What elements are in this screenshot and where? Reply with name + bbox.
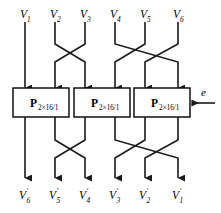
output-v3-prime: V′3 [109,187,121,205]
wire-v3-to-block-port [55,22,85,88]
permutation-network-figure: P2×16/1P2×16/1P2×16/1 e V1V2V3V4V5V6 V′6… [0,0,221,213]
wire-out-left-2 [55,117,85,178]
input-v5: V5 [140,8,151,24]
output-v2-prime: V′2 [139,187,151,205]
block-p-left-outline [13,88,69,117]
input-v5-subscript: 5 [147,15,151,24]
output-v6-prime: V′6 [19,187,31,205]
input-v2: V2 [50,8,61,24]
block-p-middle-sublabel: 2×16/1 [99,104,120,112]
input-v3-subscript: 3 [86,15,91,24]
output-v2-prime-subscript: 2 [147,196,151,205]
enable-label: e [201,86,206,98]
wire-v4-to-block-port [115,22,178,88]
output-v3-prime-subscript: 3 [116,196,121,205]
output-v1-prime: V′1 [172,187,183,205]
input-v6-subscript: 6 [180,15,184,24]
block-p-right[interactable]: P2×16/1 [134,88,190,117]
block-p-right-label: P [151,97,158,109]
enable-wire-group: e [192,86,215,103]
figure-canvas: P2×16/1P2×16/1P2×16/1 e V1V2V3V4V5V6 V′6… [0,0,221,213]
block-p-right-outline [134,88,190,117]
blocks-group: P2×16/1P2×16/1P2×16/1 [13,88,190,117]
output-v4-prime-subscript: 4 [87,196,91,205]
wire-out-right-2 [145,117,178,178]
output-v5-prime-subscript: 5 [57,196,61,205]
block-p-middle-label: P [91,97,98,109]
wire-out-mid-1 [55,117,85,178]
block-p-middle[interactable]: P2×16/1 [74,88,130,117]
wire-out-mid-2 [115,117,178,178]
wire-v2-to-block-port [55,22,85,88]
block-p-middle-outline [74,88,130,117]
output-v5-prime: V′5 [49,187,61,205]
input-v2-subscript: 2 [57,15,61,24]
input-v1: V1 [20,8,31,24]
input-v3: V3 [80,8,91,24]
input-v4-subscript: 4 [117,15,121,24]
lower-wiring-group [25,117,178,178]
block-p-left[interactable]: P2×16/1 [13,88,69,117]
wire-v5-to-block-port [115,22,145,88]
input-v4: V4 [110,8,121,24]
wire-v6-to-block-port [145,22,178,88]
input-v1-subscript: 1 [27,15,31,24]
block-p-left-label: P [30,97,37,109]
block-p-left-sublabel: 2×16/1 [38,104,59,112]
output-labels-group: V′6V′5V′4V′3V′2V′1 [19,187,183,205]
input-v6: V6 [173,8,184,24]
input-labels-group: V1V2V3V4V5V6 [20,8,184,24]
upper-wiring-group [25,22,178,88]
output-v1-prime-subscript: 1 [180,196,184,205]
block-p-right-sublabel: 2×16/1 [159,104,180,112]
output-v4-prime: V′4 [79,187,91,205]
output-v6-prime-subscript: 6 [27,196,31,205]
